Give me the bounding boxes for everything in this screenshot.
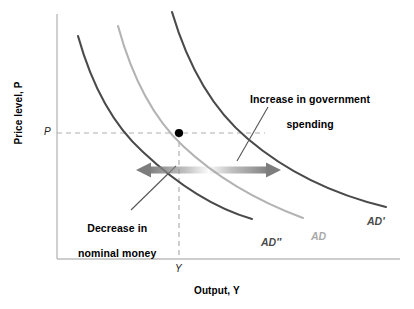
x-axis-title: Output, Y: [194, 285, 240, 297]
gov-spending-annotation-line2: spending: [286, 118, 333, 130]
curve-label-ad: AD: [311, 230, 326, 242]
nominal-money-annotation-line2: nominal money: [78, 247, 156, 259]
gov-spending-annotation-line1: Increase in government: [250, 93, 370, 105]
nominal-money-annotation: Decrease in nominal money: [66, 210, 156, 272]
y-axis-title-wrap: Price level, P: [8, 68, 26, 158]
equilibrium-point: [175, 129, 183, 137]
curve-label-ad-double-prime: AD″: [261, 236, 281, 248]
curve-label-ad-prime: AD': [367, 215, 385, 227]
y-axis-title: Price level, P: [13, 81, 24, 144]
ad-curve-shift-figure: Price level, P P Y Output, Y Increase in…: [0, 0, 414, 309]
nominal-money-annotation-line1: Decrease in: [87, 222, 147, 234]
y-axis-tick-label: P: [44, 126, 51, 138]
x-axis-tick-label: Y: [175, 263, 182, 275]
leftward-shift-arrow: [136, 163, 208, 178]
diagram-canvas: [0, 0, 414, 309]
gov-spending-annotation: Increase in government spending: [238, 81, 370, 143]
